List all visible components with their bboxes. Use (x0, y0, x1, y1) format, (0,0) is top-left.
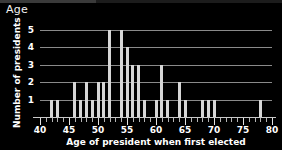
x-axis-minor-tick (237, 118, 238, 122)
bar (97, 82, 100, 117)
x-axis-tick-label: 80 (260, 125, 282, 136)
x-axis-major-tick (69, 118, 70, 125)
x-axis-minor-tick (173, 118, 174, 122)
bar (213, 100, 216, 117)
bar (137, 65, 140, 117)
x-axis-tick-label: 50 (86, 125, 110, 136)
y-axis-tick-label: 4 (20, 43, 34, 52)
x-axis-tick-label: 65 (173, 125, 197, 136)
x-axis-title: Age of president when first elected (40, 137, 272, 148)
y-axis-tick-label: 1 (20, 96, 34, 105)
x-axis-minor-tick (133, 118, 134, 122)
x-axis-major-tick (98, 118, 99, 125)
x-axis-tick-label: 55 (115, 125, 139, 136)
bar (79, 100, 82, 117)
x-axis-major-tick (214, 118, 215, 125)
bar (160, 65, 163, 117)
x-axis-minor-tick (231, 118, 232, 122)
x-axis-major-tick (156, 118, 157, 125)
y-axis-tick-label: 2 (20, 78, 34, 87)
bar (85, 82, 88, 117)
x-axis-minor-tick (208, 118, 209, 122)
x-axis-minor-tick (191, 118, 192, 122)
bar (131, 65, 134, 117)
bar (126, 47, 129, 117)
x-axis-minor-tick (266, 118, 267, 122)
x-axis-major-tick (243, 118, 244, 125)
x-axis-minor-tick (226, 118, 227, 122)
x-axis-tick-label: 70 (202, 125, 226, 136)
x-axis-minor-tick (46, 118, 47, 122)
x-axis-minor-tick (92, 118, 93, 122)
x-axis-minor-tick (197, 118, 198, 122)
x-axis-minor-tick (81, 118, 82, 122)
x-axis-minor-tick (260, 118, 261, 122)
bar (91, 100, 94, 117)
bar (259, 100, 262, 117)
x-axis-major-tick (127, 118, 128, 125)
x-axis-minor-tick (249, 118, 250, 122)
bar (120, 30, 123, 117)
x-axis-minor-tick (115, 118, 116, 122)
x-axis-minor-tick (150, 118, 151, 122)
bar (50, 100, 53, 117)
bar (143, 100, 146, 117)
x-axis-minor-tick (86, 118, 87, 122)
x-axis-minor-tick (179, 118, 180, 122)
x-axis-tick-label: 40 (28, 125, 52, 136)
gridline (40, 65, 272, 66)
x-axis-minor-tick (144, 118, 145, 122)
x-axis-tick-label: 45 (57, 125, 81, 136)
x-axis-minor-tick (255, 118, 256, 122)
gridline (40, 30, 272, 31)
x-axis-minor-tick (202, 118, 203, 122)
histogram-chart: 12345 404550556065707580 Number of presi… (0, 0, 282, 150)
y-axis-tick-label: 5 (20, 26, 34, 35)
gridline (40, 47, 272, 48)
x-axis-minor-tick (139, 118, 140, 122)
x-axis-major-tick (185, 118, 186, 125)
x-axis-minor-tick (63, 118, 64, 122)
bar (155, 100, 158, 117)
x-axis-minor-tick (168, 118, 169, 122)
bar (166, 100, 169, 117)
bar (201, 100, 204, 117)
x-axis-tick-label: 75 (231, 125, 255, 136)
bar (184, 100, 187, 117)
x-axis-minor-tick (104, 118, 105, 122)
x-axis-minor-tick (52, 118, 53, 122)
bar (102, 82, 105, 117)
x-axis-minor-tick (162, 118, 163, 122)
x-axis-major-tick (272, 118, 273, 125)
x-axis-tick-label: 60 (144, 125, 168, 136)
x-axis-minor-tick (220, 118, 221, 122)
x-axis-minor-tick (57, 118, 58, 122)
x-axis-major-tick (40, 118, 41, 125)
y-axis-tick-label: 3 (20, 61, 34, 70)
x-axis-minor-tick (121, 118, 122, 122)
bar (108, 30, 111, 117)
bar (73, 82, 76, 117)
app-window: Age 12345 404550556065707580 Number of p… (0, 0, 282, 150)
x-axis-minor-tick (110, 118, 111, 122)
x-axis-minor-tick (75, 118, 76, 122)
bar (56, 100, 59, 117)
y-axis-title: Number of presidents (12, 18, 22, 128)
bar (178, 82, 181, 117)
bar (207, 100, 210, 117)
